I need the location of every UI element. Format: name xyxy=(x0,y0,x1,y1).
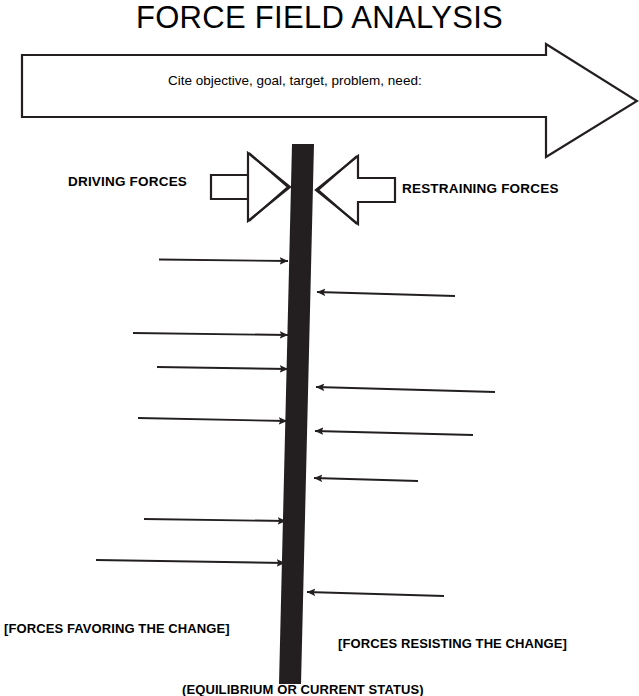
restraining-arrow-5 xyxy=(307,592,444,596)
restraining-forces-block-arrow xyxy=(316,156,395,224)
forces-favoring-change-label: [FORCES FAVORING THE CHANGE] xyxy=(4,622,230,635)
driving-arrow-3 xyxy=(157,367,288,369)
diagram-vector-layer xyxy=(0,0,639,696)
equilibrium-caption: (EQUILIBRIUM OR CURRENT STATUS) xyxy=(182,683,424,696)
driving-arrow-5 xyxy=(144,519,286,521)
equilibrium-bar xyxy=(279,144,314,684)
objective-prompt-text: Cite objective, goal, target, problem, n… xyxy=(168,74,422,88)
restraining-arrow-3 xyxy=(315,431,473,435)
restraining-arrow-1 xyxy=(317,292,455,296)
force-field-analysis-diagram: FORCE FIELD ANALYSIS xyxy=(0,0,639,696)
driving-arrow-4 xyxy=(138,418,287,421)
objective-banner-arrow xyxy=(22,44,637,157)
driving-arrow-1 xyxy=(159,260,288,262)
forces-resisting-change-label: [FORCES RESISTING THE CHANGE] xyxy=(338,637,567,650)
driving-forces-block-arrow xyxy=(211,153,290,221)
driving-forces-label: DRIVING FORCES xyxy=(68,175,187,189)
restraining-force-arrows xyxy=(307,292,495,596)
restraining-arrow-4 xyxy=(314,478,418,481)
driving-force-arrows xyxy=(96,260,288,564)
driving-arrow-6 xyxy=(96,560,285,563)
restraining-forces-label: RESTRAINING FORCES xyxy=(402,182,559,196)
restraining-arrow-2 xyxy=(316,387,495,392)
driving-arrow-2 xyxy=(133,333,288,335)
